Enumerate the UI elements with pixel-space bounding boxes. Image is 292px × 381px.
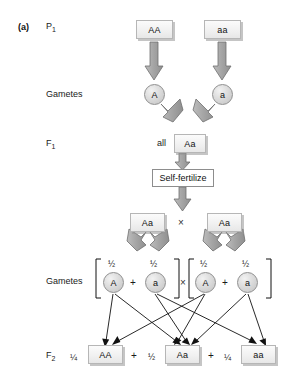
f2-plus-1: + <box>131 350 137 361</box>
gamete-plus-right: + <box>222 277 228 288</box>
fertilization-arrows <box>102 294 266 347</box>
row-label-f2: F2 <box>46 351 55 362</box>
row-label-f1: F1 <box>46 139 55 150</box>
f2-genotype-box-AA: AA <box>88 345 123 364</box>
arrow-layer <box>0 0 292 381</box>
f2-ratio-Aa: ½ <box>148 352 155 362</box>
gamete-circle-f1-left-A: A <box>103 272 124 293</box>
f1-genotype-box: Aa <box>174 134 206 153</box>
p1-parent-box-left: AA <box>136 20 173 39</box>
row-label-p1-subscript: 1 <box>52 26 56 33</box>
row-label-p1: P1 <box>46 22 56 33</box>
f1-prefix-label: all <box>157 139 166 148</box>
gamete-circle-p-left: A <box>144 84 165 105</box>
f1-cross-box-left: Aa <box>130 213 165 232</box>
block-arrow-selffertilize-to-cross <box>174 187 191 211</box>
gamete-fraction-left-a: ½ <box>150 259 157 269</box>
self-fertilize-box: Self-fertilize <box>152 169 214 187</box>
block-arrow-p1-left-to-gamete <box>145 42 163 80</box>
row-label-gametes-p: Gametes <box>46 90 83 99</box>
f2-genotype-box-aa: aa <box>241 345 276 364</box>
f2-ratio-AA: ¼ <box>70 352 77 362</box>
f1-cross-operator: × <box>178 217 184 228</box>
gamete-fraction-right-a: ½ <box>242 259 249 269</box>
row-label-f2-subscript: 2 <box>52 355 56 362</box>
gamete-circle-f1-right-a: a <box>237 272 258 293</box>
block-arrow-gamete-lower-a-to-f1 <box>193 99 215 122</box>
figure-panel-a: (a) P1 Gametes F1 Gametes F2 AA aa A a a… <box>0 0 292 381</box>
block-arrow-p1-right-to-gamete <box>213 42 231 80</box>
block-arrow-right-parent-splits <box>203 229 245 251</box>
gamete-circle-p-right: a <box>212 84 233 105</box>
gamete-circle-f1-right-A: A <box>195 272 216 293</box>
block-arrow-gamete-a-to-f1 <box>161 99 183 122</box>
block-arrow-f1-to-selffertilize <box>175 153 190 170</box>
gamete-fraction-right-A: ½ <box>200 259 207 269</box>
gamete-circle-f1-left-a: a <box>145 272 166 293</box>
block-arrow-left-parent-splits <box>127 229 169 251</box>
row-label-gametes-f1: Gametes <box>46 277 83 286</box>
f2-plus-2: + <box>208 350 214 361</box>
gamete-cross-operator: × <box>180 277 186 288</box>
gamete-plus-left: + <box>130 277 136 288</box>
row-label-f1-subscript: 1 <box>52 143 56 150</box>
p1-parent-box-right: aa <box>204 20 241 39</box>
gamete-fraction-left-A: ½ <box>108 259 115 269</box>
f2-genotype-box-Aa: Aa <box>165 345 200 364</box>
panel-letter: (a) <box>18 22 29 32</box>
f1-cross-box-right: Aa <box>207 213 242 232</box>
f2-ratio-aa: ¼ <box>224 352 231 362</box>
